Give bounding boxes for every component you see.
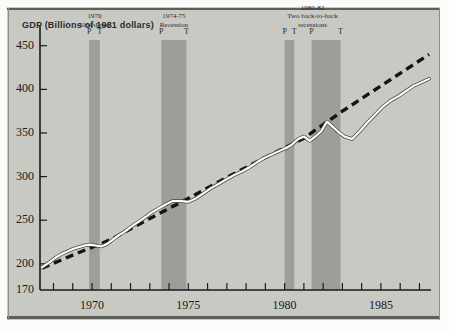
trough-marker: T xyxy=(335,27,345,36)
y-axis-tick-label: 250 xyxy=(8,212,34,227)
recession-bands-group xyxy=(89,40,340,290)
gdp-line-chart xyxy=(9,10,439,320)
annotation-line: 1980-82 xyxy=(253,4,373,13)
annotation-line: Two back-to-back xyxy=(253,12,373,21)
figure-container: GDP (Billions of 1981 dollars) 450400350… xyxy=(0,0,449,331)
recession-band xyxy=(89,40,100,290)
peak-marker: P xyxy=(280,27,290,36)
y-axis-tick-label: 400 xyxy=(8,81,34,96)
page-margin-bottom xyxy=(0,320,449,331)
peak-marker: P xyxy=(307,27,317,36)
trough-marker: T xyxy=(181,27,191,36)
trough-marker: T xyxy=(95,27,105,36)
trend-gdp-path xyxy=(42,54,429,268)
y-axis-tick-label: 170 xyxy=(8,282,34,297)
recession-band xyxy=(285,40,295,290)
chart-plot-area xyxy=(9,10,439,320)
actual-gdp-line xyxy=(42,79,429,267)
x-axis-tick-label: 1975 xyxy=(168,298,208,313)
y-axis-tick-label: 300 xyxy=(8,169,34,184)
trough-marker: T xyxy=(289,27,299,36)
y-axis-tick-label: 200 xyxy=(8,256,34,271)
peak-marker: P xyxy=(156,27,166,36)
annotation-line: 1974-75 xyxy=(114,12,234,21)
x-axis-tick-label: 1970 xyxy=(72,298,112,313)
x-axis-tick-label: 1980 xyxy=(265,298,305,313)
trend-gdp-line xyxy=(42,54,429,268)
recession-band xyxy=(161,40,186,290)
annot-1980-82: 1980-82Two back-to-backrecessions xyxy=(253,4,373,30)
x-axis-tick-label: 1985 xyxy=(361,298,401,313)
page-margin-right xyxy=(440,0,449,331)
annot-1974-75: 1974-75Recession xyxy=(114,12,234,29)
page-margin-left xyxy=(0,0,7,331)
recession-band xyxy=(312,40,341,290)
y-axis-tick-label: 350 xyxy=(8,125,34,140)
page-margin-top xyxy=(0,0,449,7)
y-axis-tick-label: 450 xyxy=(8,38,34,53)
peak-marker: P xyxy=(84,27,94,36)
frame-rule-right xyxy=(439,8,440,320)
actual-gdp-path-outline xyxy=(42,79,429,267)
annotation-line: Recession xyxy=(114,21,234,30)
